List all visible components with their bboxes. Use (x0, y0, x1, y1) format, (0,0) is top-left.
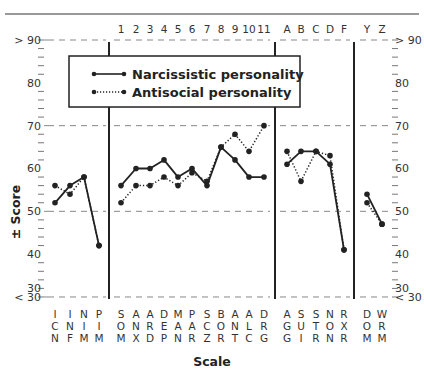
line-chart: > 90807060504030< 30 > 90807060504030< 3… (0, 0, 424, 378)
data-series (52, 123, 385, 253)
scale-label: X (340, 320, 347, 332)
data-point (364, 191, 370, 197)
antisocial-line (121, 126, 264, 203)
top-label: 11 (257, 23, 270, 35)
data-point (298, 179, 304, 185)
y-axis-left: > 90807060504030< 30 (14, 34, 44, 304)
legend-label-narcissistic: Narcissistic personality (132, 67, 304, 82)
scale-label: S (298, 308, 305, 320)
scale-label: Z (203, 332, 210, 344)
scale-label: P (161, 332, 167, 344)
data-point (52, 200, 58, 206)
scale-label: T (231, 332, 239, 344)
scale-label: N (174, 332, 182, 344)
data-point (147, 166, 153, 172)
scale-label: W (377, 308, 388, 320)
narcissistic-line (367, 194, 382, 224)
data-point (327, 153, 333, 159)
data-point (81, 174, 87, 180)
top-label: 9 (232, 23, 239, 35)
top-label: 1 (118, 23, 125, 35)
y-tick-label-right: < 30 (395, 291, 422, 304)
scale-label: I (299, 332, 302, 344)
top-label: Z (378, 23, 385, 35)
scale-label: A (231, 308, 239, 320)
scale-label: M (116, 332, 125, 344)
top-label: F (341, 23, 347, 35)
data-point (96, 243, 102, 249)
scale-label: G (283, 332, 291, 344)
scale-label: I (82, 320, 85, 332)
scale-label: C (51, 320, 58, 332)
scale-label: A (188, 320, 196, 332)
y-axis-title: ± Score (8, 185, 23, 239)
data-point (204, 179, 210, 185)
y-tick-label-right: 40 (395, 248, 409, 261)
scale-label: P (189, 308, 195, 320)
data-point (261, 123, 267, 129)
scale-label: N (132, 320, 140, 332)
scale-label: C (245, 332, 252, 344)
scale-label: N (51, 332, 59, 344)
top-label: 10 (242, 23, 255, 35)
data-point (118, 200, 124, 206)
y-tick-label-right: 70 (395, 120, 409, 133)
y-axis-right: > 90807060504030< 30 (392, 34, 422, 304)
top-label: D (326, 23, 334, 35)
y-tick-label-left: 80 (27, 77, 41, 90)
data-point (147, 183, 153, 189)
scale-label: S (313, 308, 320, 320)
top-label: Y (363, 23, 371, 35)
data-point (284, 149, 290, 155)
top-label: 6 (189, 23, 196, 35)
scale-label: R (340, 308, 347, 320)
legend: Narcissistic personality Antisocial pers… (69, 56, 304, 107)
top-label: A (283, 23, 291, 35)
scale-label: B (217, 308, 224, 320)
scale-label: S (204, 308, 211, 320)
data-point (379, 221, 385, 227)
data-point (67, 183, 73, 189)
scale-label: R (217, 332, 224, 344)
scale-label: A (132, 308, 140, 320)
y-tick-label-left: > 90 (14, 34, 41, 47)
legend-label-antisocial: Antisocial personality (132, 85, 292, 100)
x-axis-title: Scale (193, 354, 231, 369)
scale-label: O (326, 320, 334, 332)
scale-label: F (67, 332, 73, 344)
data-point (67, 191, 73, 197)
data-point (246, 174, 252, 180)
scale-label: D (363, 308, 371, 320)
scale-label: R (378, 320, 385, 332)
top-label: 7 (204, 23, 211, 35)
scale-label: I (53, 308, 56, 320)
scale-label: R (146, 320, 153, 332)
top-column-labels: 1234567891011ABCDFYZ (118, 23, 386, 35)
top-label: 3 (147, 23, 154, 35)
scale-label: N (66, 320, 74, 332)
data-point (232, 157, 238, 163)
y-tick-label-left: 40 (27, 248, 41, 261)
data-point (341, 247, 347, 253)
data-point (298, 149, 304, 155)
data-point (133, 183, 139, 189)
data-point (189, 170, 195, 176)
scale-label: D (160, 308, 168, 320)
top-label: 5 (175, 23, 182, 35)
scale-label: R (312, 332, 319, 344)
scale-label: U (297, 320, 305, 332)
top-label: 8 (218, 23, 225, 35)
y-tick-label-right: 50 (395, 205, 409, 218)
top-label: 2 (133, 23, 140, 35)
data-point (175, 183, 181, 189)
y-tick-label-left: < 30 (14, 291, 41, 304)
scale-label: R (188, 332, 195, 344)
scale-label: T (312, 320, 320, 332)
scale-label: M (362, 332, 371, 344)
data-point (364, 200, 370, 206)
scale-label: S (118, 308, 125, 320)
scale-label: I (97, 320, 100, 332)
scale-label: M (173, 308, 182, 320)
narcissistic-line (287, 151, 344, 250)
scale-label: M (79, 332, 88, 344)
